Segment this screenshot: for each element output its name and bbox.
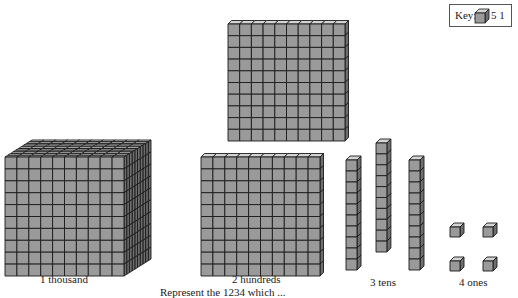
- thousand-cube: [5, 140, 151, 276]
- ten-rod-2: [376, 139, 391, 252]
- one-cube-2: [483, 223, 497, 237]
- hundred-flat-2: [201, 154, 324, 277]
- key-value: 5 1: [491, 9, 505, 21]
- ten-rod-1: [346, 156, 361, 270]
- unit-cube-icon: [474, 8, 490, 24]
- key-box: Key: 5 1: [449, 4, 512, 27]
- tens-label: 3 tens: [370, 276, 396, 288]
- one-cube-4: [483, 257, 497, 271]
- hundreds-label: 2 hundreds: [232, 273, 281, 285]
- caption: Represent the 1234 which ...: [160, 286, 286, 298]
- one-cube-3: [450, 257, 464, 271]
- thousand-label: 1 thousand: [40, 273, 88, 285]
- ten-rod-3: [409, 156, 424, 270]
- one-cube-1: [450, 223, 464, 237]
- ones-label: 4 ones: [459, 276, 487, 288]
- hundred-flat-1: [228, 21, 349, 142]
